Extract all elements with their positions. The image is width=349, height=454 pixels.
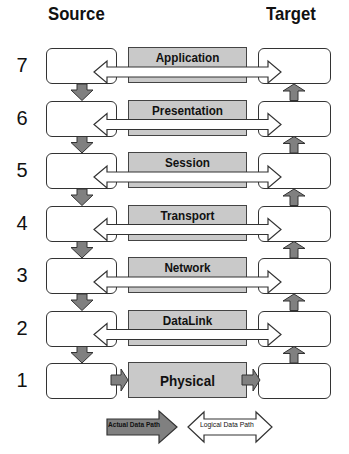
up-arrow-icon — [283, 294, 305, 311]
down-arrow-icon — [71, 189, 93, 206]
legend-actual-label: Actual Data Path — [108, 420, 162, 429]
right-arrow-icon — [111, 369, 128, 391]
logical-data-path-arrow — [94, 166, 281, 188]
up-arrow-icon — [283, 347, 305, 364]
down-arrow-icon — [71, 84, 93, 101]
logical-data-path-arrow — [94, 271, 281, 293]
up-arrow-icon — [283, 242, 305, 259]
logical-data-path-arrow — [94, 61, 281, 83]
logical-data-path-arrow — [94, 324, 281, 346]
up-arrow-icon — [283, 84, 305, 101]
right-arrow-icon — [242, 369, 260, 391]
legend-logical-label: Logical Data Path — [200, 420, 260, 429]
down-arrow-icon — [71, 347, 93, 364]
up-arrow-icon — [283, 189, 305, 206]
up-arrow-icon — [283, 137, 305, 154]
down-arrow-icon — [71, 137, 93, 154]
down-arrow-icon — [71, 242, 93, 259]
down-arrow-icon — [71, 294, 93, 311]
logical-data-path-arrow — [94, 219, 281, 241]
logical-data-path-arrow — [94, 114, 281, 136]
arrows-layer — [0, 0, 349, 454]
